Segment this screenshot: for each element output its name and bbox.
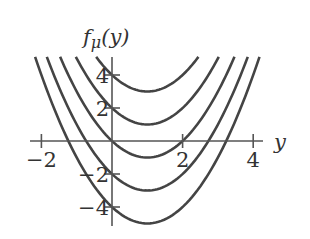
- x-axis-label: y: [273, 130, 287, 154]
- x-tick-label: 2: [176, 148, 189, 172]
- chart-canvas: −22442−2−4 fμ(y) y: [0, 0, 310, 239]
- curve-c=-4: [35, 57, 259, 224]
- x-tick-label: −2: [26, 148, 57, 172]
- y-tick-label: 2: [96, 97, 109, 121]
- y-tick-label: −4: [78, 196, 109, 220]
- y-axis-label: fμ(y): [81, 25, 129, 52]
- x-tick-label: 4: [247, 148, 260, 172]
- y-tick-label: 4: [96, 64, 109, 88]
- y-tick-label: −2: [78, 163, 109, 187]
- parabola-family: [35, 57, 259, 224]
- axes: [30, 57, 263, 226]
